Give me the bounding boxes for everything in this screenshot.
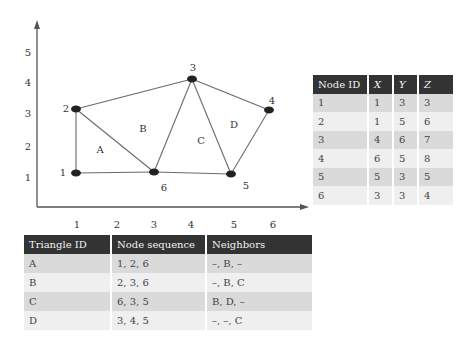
table-cell: 3 [394,186,417,205]
x-axis-arrow-icon [300,204,309,210]
table-cell: 2, 3, 6 [112,273,205,292]
triangle-label: C [197,135,205,146]
table-cell: 6 [419,112,453,131]
table-cell: 3 [313,131,367,150]
table-cell: 4 [419,186,453,205]
table-cell: 5 [369,168,392,187]
table-cell: B, D, – [207,292,312,311]
node-4 [264,107,274,114]
table-cell: 7 [419,131,453,150]
triangle-table: Triangle ID Node sequence Neighbors A 1,… [22,235,314,330]
node-label: 1 [60,167,66,178]
table-header-row: Triangle ID Node sequence Neighbors [24,235,312,254]
x-tick: 4 [188,219,194,230]
column-header: Triangle ID [24,235,110,254]
table-cell: 6, 3, 5 [112,292,205,311]
table-cell: 3, 4, 5 [112,311,205,330]
table-cell: 4 [369,131,392,150]
column-header: Z [419,75,453,94]
table-cell: 3 [419,94,453,113]
x-tick: 6 [270,219,276,230]
node-table: Node ID X Y Z 1 1 3 3 2 1 5 6 3 4 6 7 4 … [311,75,455,205]
table-cell: 6 [369,149,392,168]
table-row: 5 5 3 5 [313,168,453,187]
table-cell: 8 [419,149,453,168]
column-header: X [369,75,392,94]
x-tick: 5 [231,219,237,230]
table-cell: –, B, – [207,254,312,273]
y-tick: 5 [25,47,31,58]
table-cell: 1, 2, 6 [112,254,205,273]
table-row: A 1, 2, 6 –, B, – [24,254,312,273]
table-cell: C [24,292,110,311]
table-cell: 6 [394,131,417,150]
node-1 [71,170,81,177]
table-cell: 6 [313,186,367,205]
x-tick: 2 [114,219,120,230]
table-row: C 6, 3, 5 B, D, – [24,292,312,311]
y-tick: 1 [25,172,31,183]
triangle-label: B [139,123,146,134]
table-cell: 3 [394,168,417,187]
table-cell: 5 [419,168,453,187]
node-label: 4 [269,95,275,106]
table-row: 1 1 3 3 [313,94,453,113]
node-5 [226,171,236,178]
table-cell: 3 [394,94,417,113]
table-cell: –, B, C [207,273,312,292]
column-header: Node sequence [112,235,205,254]
y-tick: 4 [25,77,31,88]
x-tick: 3 [151,219,157,230]
table-header-row: Node ID X Y Z [313,75,453,94]
table-cell: 5 [394,149,417,168]
table-row: 2 1 5 6 [313,112,453,131]
node-6 [149,169,159,176]
table-cell: 1 [369,94,392,113]
table-cell: 4 [313,149,367,168]
column-header: Y [394,75,417,94]
table-row: 3 4 6 7 [313,131,453,150]
table-cell: A [24,254,110,273]
y-axis-arrow-icon [34,20,40,29]
tin-diagram: 1 2 3 4 5 1 2 3 4 5 6 1 2 3 4 [0,0,320,230]
node-label: 3 [190,62,196,73]
node-label: 5 [243,180,249,191]
table-row: 6 3 3 4 [313,186,453,205]
node-2 [71,106,81,113]
node-label: 2 [63,103,69,114]
triangle-label: A [95,144,104,155]
column-header: Neighbors [207,235,312,254]
column-header: Node ID [313,75,367,94]
node-label: 6 [161,182,167,193]
table-cell: 1 [313,94,367,113]
y-tick: 3 [25,108,31,119]
table-row: 4 6 5 8 [313,149,453,168]
table-row: B 2, 3, 6 –, B, C [24,273,312,292]
table-cell: B [24,273,110,292]
table-cell: 3 [369,186,392,205]
triangle-label: D [230,119,238,130]
table-cell: 5 [394,112,417,131]
table-cell: 1 [369,112,392,131]
table-cell: –, –, C [207,311,312,330]
node-3 [187,76,197,83]
table-cell: 2 [313,112,367,131]
table-cell: D [24,311,110,330]
y-tick: 2 [25,141,31,152]
x-tick: 1 [74,219,80,230]
table-cell: 5 [313,168,367,187]
triangle-edges [76,79,269,174]
table-row: D 3, 4, 5 –, –, C [24,311,312,330]
